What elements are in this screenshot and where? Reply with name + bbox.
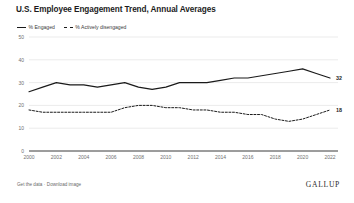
- x-axis-tick-label: 2000: [23, 154, 34, 160]
- chart-card: U.S. Employee Engagement Trend, Annual A…: [0, 0, 354, 203]
- x-axis-tick-label: 2004: [78, 154, 89, 160]
- x-axis-tick-labels: 2000200220042006200820102012201420162018…: [23, 154, 335, 160]
- legend-label-disengaged: % Actively disengaged: [75, 24, 126, 30]
- plot-area: 50403020100 2000200220042006200820102012…: [0, 33, 354, 173]
- series-line-disengaged: [29, 105, 330, 121]
- series-paths-group: [29, 69, 330, 121]
- x-axis-tick-label: 2022: [324, 154, 335, 160]
- x-axis-tick-label: 2002: [51, 154, 62, 160]
- footer-links: Get the data·Download image: [17, 182, 81, 187]
- legend-item-engaged: % Engaged: [17, 24, 55, 30]
- legend-swatch-solid-icon: [17, 27, 26, 28]
- legend-item-disengaged: % Actively disengaged: [64, 24, 126, 30]
- page-title: U.S. Employee Engagement Trend, Annual A…: [16, 5, 216, 14]
- y-axis-tick-labels: 50403020100: [18, 34, 24, 154]
- y-axis-tick-label: 30: [18, 80, 24, 86]
- legend-swatch-dashed-icon: [64, 27, 73, 28]
- x-axis-tick-label: 2012: [188, 154, 199, 160]
- y-axis-tick-label: 20: [18, 102, 24, 108]
- x-axis-tick-label: 2016: [242, 154, 253, 160]
- x-axis-tick-label: 2014: [215, 154, 226, 160]
- line-chart-svg: 50403020100 2000200220042006200820102012…: [0, 33, 354, 173]
- x-axis-tick-label: 2010: [160, 154, 171, 160]
- series-line-engaged: [29, 69, 330, 92]
- x-axis-tick-label: 2008: [133, 154, 144, 160]
- end-label-engaged: 32: [336, 75, 342, 81]
- y-axis-tick-label: 0: [21, 148, 24, 154]
- footer-separator: ·: [44, 182, 46, 187]
- download-image-link[interactable]: Download image: [47, 182, 81, 187]
- chart-legend: % Engaged % Actively disengaged: [17, 24, 126, 30]
- y-axis-tick-label: 10: [18, 125, 24, 131]
- x-axis-tick-label: 2018: [270, 154, 281, 160]
- y-axis-tick-label: 50: [18, 34, 24, 40]
- get-the-data-link[interactable]: Get the data: [17, 182, 42, 187]
- x-axis-tick-label: 2020: [297, 154, 308, 160]
- legend-label-engaged: % Engaged: [29, 24, 55, 30]
- y-axis-tick-label: 40: [18, 57, 24, 63]
- x-axis-tick-label: 2006: [106, 154, 117, 160]
- end-label-disengaged: 18: [336, 107, 342, 113]
- series-end-labels: 3218: [336, 75, 342, 113]
- gallup-logo: GALLUP: [306, 180, 340, 189]
